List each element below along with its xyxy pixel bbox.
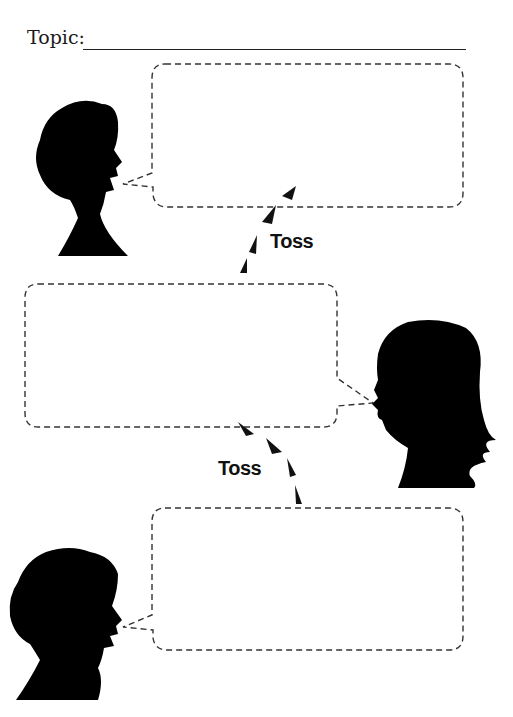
person-silhouette-2: [372, 320, 496, 488]
speech-bubble-1[interactable]: [160, 72, 455, 199]
person-silhouette-3: [10, 548, 122, 700]
toss-label-2: Toss: [218, 457, 261, 480]
toss-label-1: Toss: [270, 230, 313, 253]
speech-bubble-2[interactable]: [33, 292, 329, 419]
speech-bubble-3[interactable]: [160, 516, 455, 642]
person-silhouette-1: [36, 101, 128, 256]
